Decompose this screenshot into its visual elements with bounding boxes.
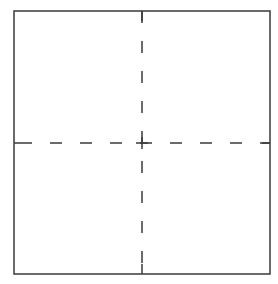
diagram-background: [0, 0, 278, 284]
square-diagram: [0, 0, 278, 284]
